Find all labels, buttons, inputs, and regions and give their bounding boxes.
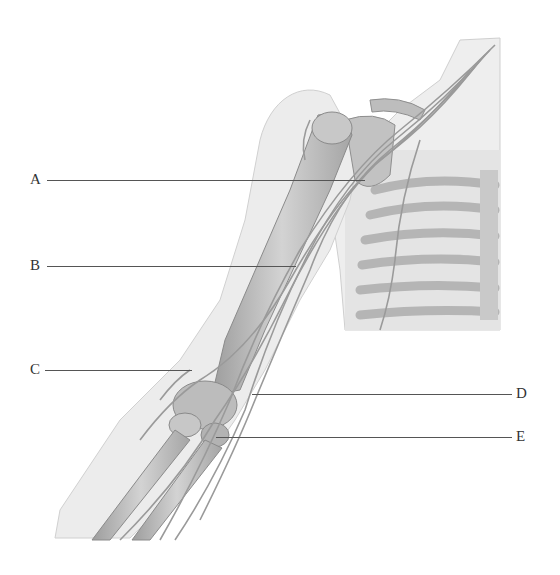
label-d: D <box>516 386 527 401</box>
leader-line-d <box>252 394 512 395</box>
label-b: B <box>30 258 40 273</box>
sternum <box>480 170 498 320</box>
leader-line-c <box>45 370 192 371</box>
label-a: A <box>30 172 41 187</box>
label-c: C <box>30 362 40 377</box>
leader-line-b <box>47 266 296 267</box>
humeral-head <box>312 112 352 144</box>
label-e: E <box>516 429 525 444</box>
arm-nerve-illustration <box>0 0 560 575</box>
leader-line-e <box>216 437 512 438</box>
leader-line-a <box>47 180 365 181</box>
